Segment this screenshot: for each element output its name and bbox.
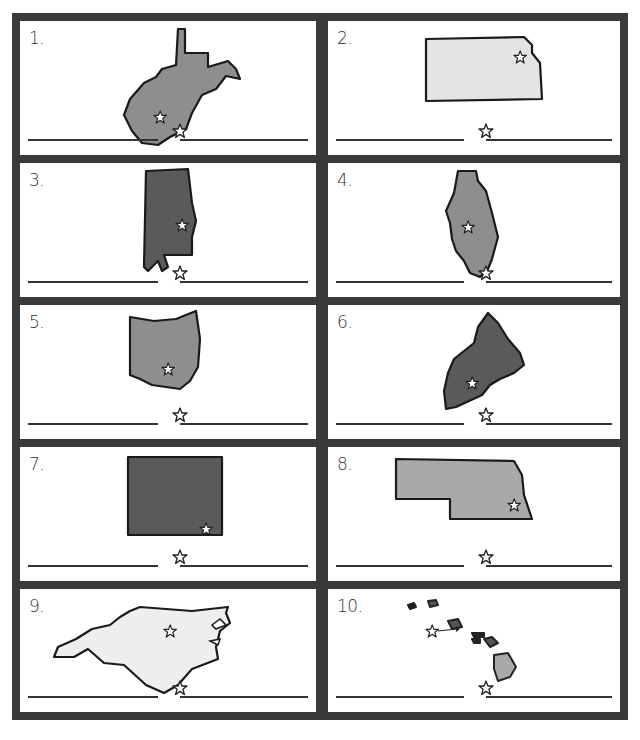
capital-key-star-icon: [478, 549, 494, 565]
capital-key-star-icon: [478, 407, 494, 423]
card-number-label: 3.: [29, 170, 44, 190]
card-number-label: 9.: [29, 596, 44, 616]
capital-name-answer-line[interactable]: [180, 696, 308, 698]
state-outline-map: [328, 163, 620, 297]
capital-key-star-icon: [478, 123, 494, 139]
state-card: 3.: [20, 163, 316, 297]
capital-name-answer-line[interactable]: [486, 139, 612, 141]
state-card: 5.: [20, 305, 316, 439]
state-name-answer-line[interactable]: [336, 565, 464, 567]
state-outline-map: [328, 447, 620, 581]
state-card: 1.: [20, 21, 316, 155]
capital-key-star-icon: [478, 680, 494, 696]
state-name-answer-line[interactable]: [28, 139, 158, 141]
state-name-answer-line[interactable]: [28, 565, 158, 567]
capital-name-answer-line[interactable]: [486, 281, 612, 283]
capital-key-star-icon: [172, 265, 188, 281]
capital-name-answer-line[interactable]: [180, 281, 308, 283]
state-card: 10.: [328, 589, 620, 712]
state-card: 9.: [20, 589, 316, 712]
state-outline-map: [328, 589, 620, 712]
card-number-label: 4.: [337, 170, 352, 190]
state-card: 2.: [328, 21, 620, 155]
card-number-label: 8.: [337, 454, 352, 474]
worksheet-grid: 1.2.3.4.5.6.7.8.9.10.: [12, 13, 628, 720]
card-number-label: 5.: [29, 312, 44, 332]
state-outline-map: [20, 589, 316, 712]
state-name-answer-line[interactable]: [336, 696, 464, 698]
state-outline-map: [20, 447, 316, 581]
capital-name-answer-line[interactable]: [486, 423, 612, 425]
state-outline-map: [328, 305, 620, 439]
capital-name-answer-line[interactable]: [486, 565, 612, 567]
state-name-answer-line[interactable]: [28, 423, 158, 425]
capital-name-answer-line[interactable]: [486, 696, 612, 698]
state-card: 4.: [328, 163, 620, 297]
capital-star-icon: [426, 625, 439, 637]
state-outline-map: [20, 305, 316, 439]
capital-name-answer-line[interactable]: [180, 139, 308, 141]
capital-name-answer-line[interactable]: [180, 565, 308, 567]
state-card: 6.: [328, 305, 620, 439]
state-name-answer-line[interactable]: [28, 281, 158, 283]
capital-key-star-icon: [478, 265, 494, 281]
state-name-answer-line[interactable]: [336, 281, 464, 283]
capital-key-star-icon: [172, 407, 188, 423]
state-card: 8.: [328, 447, 620, 581]
state-name-answer-line[interactable]: [336, 139, 464, 141]
state-name-answer-line[interactable]: [336, 423, 464, 425]
state-card: 7.: [20, 447, 316, 581]
card-number-label: 1.: [29, 28, 44, 48]
card-number-label: 10.: [337, 596, 363, 616]
capital-key-star-icon: [172, 680, 188, 696]
card-number-label: 6.: [337, 312, 352, 332]
card-number-label: 2.: [337, 28, 352, 48]
capital-key-star-icon: [172, 549, 188, 565]
capital-key-star-icon: [172, 123, 188, 139]
state-outline-map: [20, 163, 316, 297]
capital-name-answer-line[interactable]: [180, 423, 308, 425]
card-number-label: 7.: [29, 454, 44, 474]
state-outline-map: [328, 21, 620, 155]
state-outline-map: [20, 21, 316, 155]
state-name-answer-line[interactable]: [28, 696, 158, 698]
